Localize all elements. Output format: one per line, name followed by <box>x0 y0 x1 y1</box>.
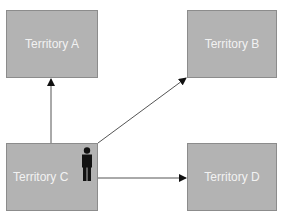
territory-d-label: Territory D <box>204 170 259 184</box>
territory-b-node[interactable]: Territory B <box>187 10 277 78</box>
arrow-c-to-b <box>98 78 186 143</box>
territory-a-node[interactable]: Territory A <box>6 10 98 78</box>
person-icon <box>81 147 93 181</box>
territory-b-label: Territory B <box>205 37 260 51</box>
territory-d-node[interactable]: Territory D <box>187 143 277 211</box>
territory-c-label: Territory C <box>13 170 68 184</box>
territory-a-label: Territory A <box>25 37 79 51</box>
